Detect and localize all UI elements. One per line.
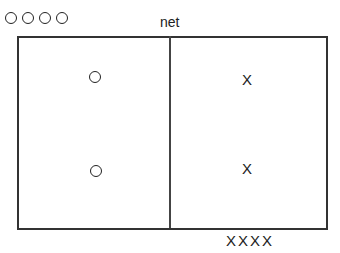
bench-o-team [5,12,68,24]
o-player-icon [56,12,68,24]
o-player-icon [22,12,34,24]
bench-x-team: XXXX [226,233,274,248]
net-label: net [160,15,179,29]
court [17,36,328,230]
x-player-icon: X [242,72,252,87]
o-player-icon [39,12,51,24]
o-player-icon [5,12,17,24]
net-line [169,36,171,228]
o-player-icon [90,165,102,177]
x-player-icon: X [242,161,252,176]
o-player-icon [89,71,101,83]
